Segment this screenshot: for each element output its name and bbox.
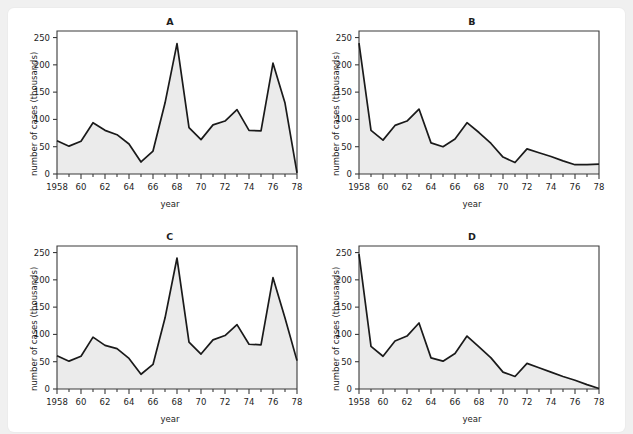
y-tick-label: 50 — [341, 357, 352, 367]
x-tick-label: 74 — [244, 397, 255, 407]
y-tick-label: 250 — [34, 248, 50, 258]
x-tick-label: 66 — [450, 182, 461, 192]
x-tick-label: 1958 — [348, 397, 370, 407]
x-tick-label: 78 — [594, 182, 605, 192]
x-tick-label: 76 — [268, 397, 279, 407]
x-tick-label: 62 — [402, 182, 413, 192]
y-tick-label: 50 — [39, 357, 50, 367]
x-tick-label: 78 — [292, 397, 303, 407]
y-tick-label: 0 — [45, 384, 50, 394]
x-tick-label: 64 — [124, 182, 135, 192]
plot-area-c: 050100150200250195860626466687072747678 — [20, 241, 320, 416]
page-root: A number of cases (thousands) year 05010… — [0, 0, 633, 434]
x-tick-label: 72 — [522, 182, 533, 192]
y-tick-label: 200 — [34, 60, 50, 70]
x-tick-label: 74 — [244, 182, 255, 192]
x-tick-label: 70 — [196, 397, 207, 407]
chart-panel-a: A number of cases (thousands) year 05010… — [20, 16, 320, 216]
y-tick-label: 250 — [336, 248, 352, 258]
x-tick-label: 62 — [100, 397, 111, 407]
x-tick-label: 74 — [546, 182, 557, 192]
y-tick-label: 100 — [336, 329, 352, 339]
x-tick-label: 60 — [378, 397, 389, 407]
x-tick-label: 64 — [426, 397, 437, 407]
x-tick-label: 60 — [76, 397, 87, 407]
y-tick-label: 0 — [45, 169, 50, 179]
x-tick-label: 70 — [498, 397, 509, 407]
series-area — [359, 43, 599, 174]
chart-panel-c: C number of cases (thousands) year 05010… — [20, 231, 320, 431]
x-tick-label: 60 — [76, 182, 87, 192]
x-tick-label: 72 — [220, 397, 231, 407]
x-tick-label: 66 — [148, 397, 159, 407]
x-tick-label: 70 — [196, 182, 207, 192]
x-tick-label: 72 — [522, 397, 533, 407]
series-area — [57, 44, 297, 174]
top-caption-text — [60, 0, 580, 6]
x-tick-label: 74 — [546, 397, 557, 407]
x-tick-label: 68 — [474, 397, 485, 407]
y-tick-label: 150 — [336, 87, 352, 97]
x-tick-label: 62 — [402, 397, 413, 407]
plot-area-d: 050100150200250195860626466687072747678 — [322, 241, 622, 416]
y-tick-label: 200 — [336, 275, 352, 285]
y-tick-label: 150 — [336, 302, 352, 312]
plot-area-b: 050100150200250195860626466687072747678 — [322, 26, 622, 201]
x-tick-label: 76 — [570, 397, 581, 407]
x-tick-label: 62 — [100, 182, 111, 192]
y-tick-label: 50 — [341, 142, 352, 152]
y-tick-label: 100 — [34, 329, 50, 339]
y-tick-label: 100 — [34, 114, 50, 124]
x-tick-label: 72 — [220, 182, 231, 192]
x-tick-label: 68 — [172, 397, 183, 407]
y-tick-label: 50 — [39, 142, 50, 152]
chart-panel-b: B number of cases (thousands) year 05010… — [322, 16, 622, 216]
x-tick-label: 68 — [172, 182, 183, 192]
x-tick-label: 66 — [450, 397, 461, 407]
y-tick-label: 0 — [347, 384, 352, 394]
plot-area-a: 050100150200250195860626466687072747678 — [20, 26, 320, 201]
x-tick-label: 64 — [426, 182, 437, 192]
y-tick-label: 0 — [347, 169, 352, 179]
x-tick-label: 78 — [594, 397, 605, 407]
series-area — [359, 254, 599, 389]
x-tick-label: 66 — [148, 182, 159, 192]
x-tick-label: 1958 — [348, 182, 370, 192]
y-tick-label: 100 — [336, 114, 352, 124]
x-tick-label: 60 — [378, 182, 389, 192]
x-tick-label: 76 — [268, 182, 279, 192]
x-tick-label: 70 — [498, 182, 509, 192]
chart-panel-d: D number of cases (thousands) year 05010… — [322, 231, 622, 431]
y-tick-label: 250 — [336, 33, 352, 43]
y-tick-label: 150 — [34, 302, 50, 312]
x-tick-label: 1958 — [46, 397, 68, 407]
x-tick-label: 1958 — [46, 182, 68, 192]
y-tick-label: 200 — [336, 60, 352, 70]
x-tick-label: 68 — [474, 182, 485, 192]
x-tick-label: 64 — [124, 397, 135, 407]
y-tick-label: 200 — [34, 275, 50, 285]
y-tick-label: 250 — [34, 33, 50, 43]
x-tick-label: 78 — [292, 182, 303, 192]
x-tick-label: 76 — [570, 182, 581, 192]
y-tick-label: 150 — [34, 87, 50, 97]
series-area — [57, 258, 297, 389]
